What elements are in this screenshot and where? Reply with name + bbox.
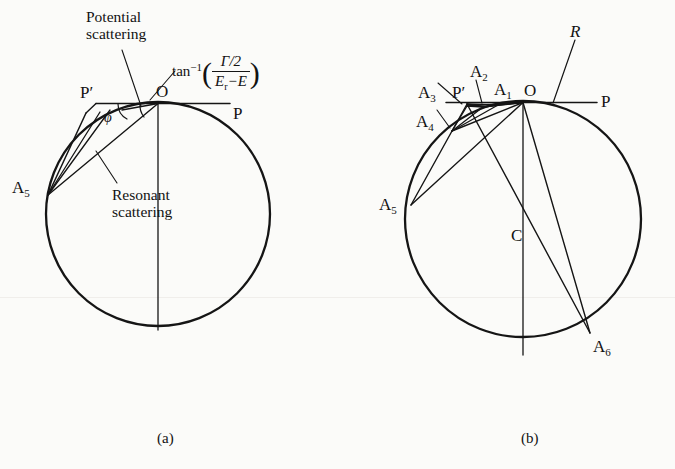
panel-b-A3-sub: 3 <box>430 92 436 104</box>
panel-a-potential-stub <box>86 104 96 114</box>
panel-b-point-A6: A6 <box>593 337 611 359</box>
resonant-label-line1: Resonant <box>112 186 170 203</box>
potential-label-line2: scattering <box>86 25 146 42</box>
panel-a-chord-aux-2 <box>48 112 100 195</box>
panel-b-poly-A4-A2 <box>452 107 483 131</box>
arctan-exponent: −1 <box>190 61 202 73</box>
panel-a-A5-base: A <box>12 178 24 197</box>
panel-b-A2-sub: 2 <box>482 71 488 83</box>
panel-b-P-text: P <box>601 92 610 111</box>
panel-b-point-A2: A2 <box>470 62 488 84</box>
panel-b-A1-base: A <box>494 80 506 99</box>
panel-b-point-A1: A1 <box>494 80 512 102</box>
formula-numerator: Γ/2 <box>212 53 250 72</box>
panel-a-point-O: O <box>156 82 168 101</box>
panel-b-A4-base: A <box>416 112 428 131</box>
panel-a-A5-sub: 5 <box>24 187 30 199</box>
panel-b-point-O: O <box>524 81 536 100</box>
panel-a-Pprime-text: P′ <box>80 83 93 102</box>
panel-b-A3-base: A <box>418 83 430 102</box>
panel-b-point-A4: A4 <box>416 112 434 134</box>
formula-fraction: Γ/2Er−E <box>212 53 250 92</box>
panel-b-A5-base: A <box>379 195 391 214</box>
panel-b-caption: (b) <box>521 430 539 447</box>
panel-a-potential-vector <box>48 113 86 195</box>
panel-b-C-text: C <box>511 226 522 245</box>
panel-b-A6-sub: 6 <box>605 346 611 358</box>
formula-close-paren: ) <box>250 56 260 89</box>
panel-b-chord-O-A6 <box>523 103 590 334</box>
figure-canvas: Potential scattering Resonant scattering… <box>0 0 675 469</box>
panel-b-point-A5: A5 <box>379 195 397 217</box>
panel-a-leader-potential <box>122 50 141 106</box>
panel-b-A4-sub: 4 <box>428 121 434 133</box>
formula-denominator-rest: −E <box>228 73 247 89</box>
panel-b-O-text: O <box>524 81 536 100</box>
panel-a-P-text: P <box>233 104 242 123</box>
panel-b-point-A3: A3 <box>418 83 436 105</box>
panel-b-leader-A4 <box>437 110 450 128</box>
panel-b-chord-Pp-A6 <box>467 104 590 333</box>
panel-b-point-C: C <box>511 226 522 245</box>
panel-b-A6-base: A <box>593 337 605 356</box>
panel-a-resonant-annotation: Resonant scattering <box>112 186 172 221</box>
panel-a-O-text: O <box>156 82 168 101</box>
panel-a-chord-aux-1 <box>48 110 110 195</box>
panel-b-A2-base: A <box>470 62 482 81</box>
panel-b-A1-sub: 1 <box>506 89 512 101</box>
potential-label-line1: Potential <box>86 8 141 25</box>
formula-open-paren: ( <box>202 56 212 89</box>
panel-b-R-text: R <box>570 22 580 41</box>
panel-b-point-P: P <box>601 92 610 111</box>
resonant-label-line2: scattering <box>112 203 172 220</box>
panel-a-phi-text: φ <box>104 110 112 125</box>
panel-a-caption-text: (a) <box>157 430 174 446</box>
formula-denominator-E: E <box>215 73 224 89</box>
panel-a-leader-resonant <box>96 151 117 183</box>
panel-a-potential-annotation: Potential scattering <box>86 8 146 43</box>
panel-b-radius-leader <box>553 40 575 103</box>
panel-b-A5-sub: 5 <box>391 204 397 216</box>
panel-a-point-A5: A5 <box>12 178 30 200</box>
panel-a-phi-label: φ <box>104 110 112 126</box>
panel-a-point-P: P <box>233 104 242 123</box>
panel-a-arctan-formula: tan−1(Γ/2Er−E) <box>172 53 260 92</box>
arctan-fn: tan <box>172 63 190 79</box>
panel-a-caption: (a) <box>157 430 174 447</box>
panel-b-point-P-prime: P′ <box>452 83 465 102</box>
panel-b-caption-text: (b) <box>521 430 539 446</box>
panel-b-Pprime-text: P′ <box>452 83 465 102</box>
panel-a-point-P-prime: P′ <box>80 83 93 102</box>
diagram-vector-layer <box>0 0 675 469</box>
panel-b-radius-label: R <box>570 22 580 41</box>
